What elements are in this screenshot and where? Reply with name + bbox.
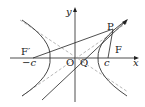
x-axis-label: x — [133, 57, 139, 68]
hyperbola-diagram: y x P F F′ −c c O Q — [0, 0, 145, 107]
line-Fprime-P — [33, 29, 113, 58]
focus-Fprime-label: F′ — [21, 46, 31, 57]
tick-minus-c-label: −c — [22, 57, 36, 68]
y-axis-label: y — [65, 6, 72, 17]
point-Q-label: Q — [80, 57, 88, 68]
tick-c-label: c — [104, 57, 110, 68]
origin-O-label: O — [66, 57, 74, 68]
point-P-label: P — [107, 21, 114, 32]
y-axis-arrow-icon — [73, 7, 77, 12]
focus-F-label: F — [115, 44, 122, 55]
